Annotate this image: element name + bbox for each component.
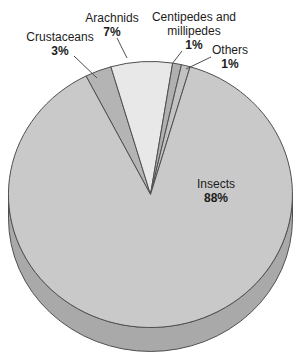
slice-label-insects: Insects 88% [197,177,235,205]
leader-line-arachnids [117,38,127,58]
leader-line-crustaceans [74,56,97,78]
slice-label-text: Others [212,43,248,57]
slice-percent-text: 88% [197,191,235,205]
slice-label-others: Others 1% [212,43,248,71]
slice-percent-text: 1% [212,57,248,71]
slice-label-text: Arachnids [85,11,138,25]
slice-label-text: Centipedes and millipedes [148,10,240,38]
slice-label-arachnids: Arachnids 7% [85,11,138,39]
slice-percent-text: 3% [26,44,93,58]
leader-line-others [186,57,211,69]
slice-percent-text: 7% [85,25,138,39]
slice-label-text: Crustaceans [26,30,93,44]
slice-label-text: Insects [197,177,235,191]
pie-chart-figure: Crustaceans 3% Arachnids 7% Centipedes a… [0,0,299,363]
slice-label-crustaceans: Crustaceans 3% [26,30,93,58]
leader-line-centipedes-and-millipedes [172,51,182,64]
